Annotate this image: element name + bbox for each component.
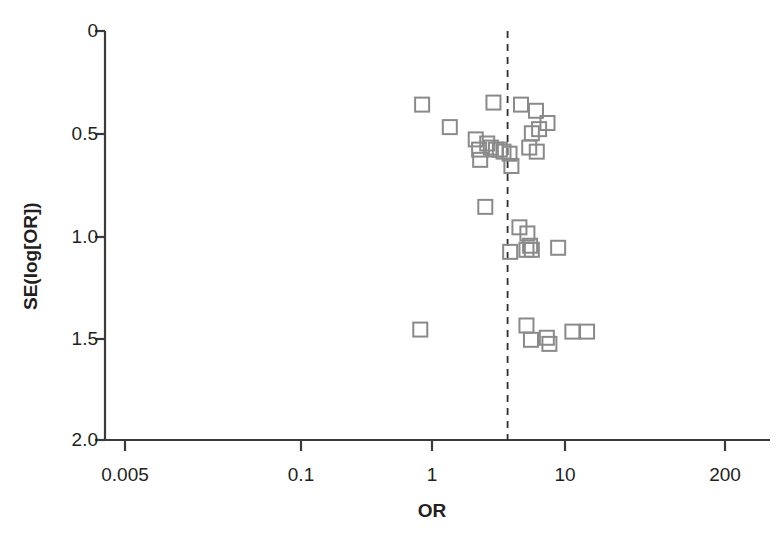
study-marker — [580, 325, 594, 339]
y-tick-label-0-5: 0.5 — [38, 123, 98, 145]
study-marker — [519, 243, 533, 257]
study-marker — [478, 200, 492, 214]
study-marker — [524, 333, 538, 347]
funnel-plot-figure: 0 0.5 1.0 1.5 2.0 0.005 0.1 1 10 200 OR … — [0, 0, 778, 548]
study-marker — [486, 96, 500, 110]
x-tick-label-0-005: 0.005 — [81, 464, 169, 486]
y-tick-label-1-5: 1.5 — [38, 328, 98, 350]
x-tick-label-200: 200 — [689, 464, 761, 486]
study-marker — [415, 98, 429, 112]
y-tick-label-0: 0 — [50, 20, 98, 42]
axis-layer — [95, 31, 770, 451]
x-tick-label-10: 10 — [533, 464, 597, 486]
x-axis-title: OR — [402, 500, 462, 522]
study-marker — [514, 98, 528, 112]
y-tick-label-1-0: 1.0 — [38, 226, 98, 248]
study-marker — [503, 245, 517, 259]
study-marker — [551, 241, 565, 255]
x-tick-label-0-1: 0.1 — [263, 464, 339, 486]
study-marker — [413, 323, 427, 337]
study-marker — [565, 325, 579, 339]
study-marker — [519, 318, 533, 332]
x-tick-label-1: 1 — [400, 464, 464, 486]
y-axis-title: SE(log[OR]) — [20, 202, 42, 310]
y-tick-label-2-0: 2.0 — [38, 429, 98, 451]
data-marker-layer — [413, 96, 594, 351]
study-marker — [443, 120, 457, 134]
